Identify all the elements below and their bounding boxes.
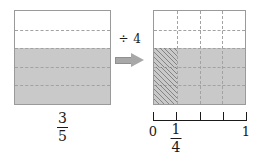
label-zero-text: 0 [149, 124, 157, 139]
number-line-tick-1-4 [176, 112, 177, 121]
number-line-tick-3-4 [223, 112, 224, 121]
left-band-5 [15, 85, 110, 104]
divide-by-four-label: ÷ 4 [112, 32, 148, 46]
number-line-tick-1 [246, 112, 247, 121]
column-divider-3 [222, 11, 223, 104]
number-line-tick-0 [153, 112, 154, 121]
number-line-tick-2-4 [200, 112, 201, 121]
three-fifths-area-model [14, 10, 111, 105]
fraction-denominator: 4 [170, 139, 183, 153]
left-band-3 [15, 48, 110, 67]
fraction-numerator: 3 [56, 111, 69, 127]
label-one-text: 1 [242, 124, 250, 139]
number-line-label-zero: 0 [149, 124, 157, 139]
unit-number-line [153, 112, 246, 124]
column-divider-1 [177, 11, 178, 104]
number-line-label-one-fourth: 1 4 [170, 122, 183, 153]
left-band-4 [15, 67, 110, 86]
figure-canvas: 3 5 ÷ 4 0 [0, 0, 255, 153]
fraction-one-fourth: 1 4 [170, 122, 183, 153]
column-divider-2 [200, 11, 201, 104]
quotient-area-model [153, 10, 246, 105]
operator-group: ÷ 4 [112, 32, 148, 67]
fraction-numerator: 1 [170, 122, 183, 138]
fraction-three-fifths: 3 5 [56, 111, 69, 143]
left-band-1 [15, 11, 110, 30]
left-band-2 [15, 30, 110, 49]
number-line-label-one: 1 [242, 124, 250, 139]
fraction-denominator: 5 [56, 128, 69, 144]
right-arrow-icon [115, 53, 145, 67]
left-model-fraction-label: 3 5 [14, 111, 111, 143]
